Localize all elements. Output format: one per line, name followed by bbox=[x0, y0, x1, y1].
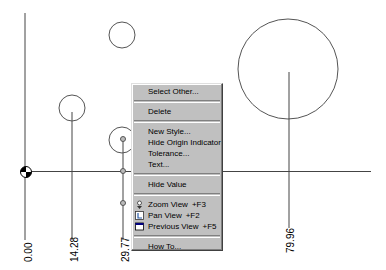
zoom-icon bbox=[135, 200, 144, 209]
circle-feature[interactable] bbox=[109, 22, 135, 48]
shortcut-label: +F5 bbox=[203, 222, 217, 231]
menu-separator bbox=[134, 100, 220, 103]
menu-item-previous-view[interactable]: Previous View+F5 bbox=[132, 221, 222, 232]
menu-item-select-other[interactable]: Select Other... bbox=[132, 86, 222, 97]
shortcut-label: +F3 bbox=[192, 200, 206, 209]
dimension-label[interactable]: 79.96 bbox=[285, 228, 296, 253]
menu-item-label: Tolerance... bbox=[148, 149, 189, 158]
dimension-label[interactable]: 14.28 bbox=[69, 237, 80, 262]
menu-item-label: Zoom View bbox=[148, 200, 188, 209]
dimension-label[interactable]: 0.00 bbox=[23, 243, 34, 262]
menu-item-pan-view[interactable]: Pan View+F2 bbox=[132, 210, 222, 221]
menu-item-tolerance[interactable]: Tolerance... bbox=[132, 148, 222, 159]
menu-item-label: Pan View bbox=[148, 211, 182, 220]
menu-item-label: New Style... bbox=[148, 127, 191, 136]
menu-item-how-to[interactable]: How To... bbox=[132, 241, 222, 252]
dimension-label[interactable]: 29.77 bbox=[120, 237, 131, 262]
menu-item-label: Hide Origin Indicator bbox=[148, 138, 221, 147]
menu-item-hide-value[interactable]: Hide Value bbox=[132, 179, 222, 190]
grip-point[interactable] bbox=[121, 137, 126, 142]
menu-item-label: Delete bbox=[148, 107, 171, 116]
origin-indicator-icon bbox=[21, 167, 32, 178]
large-circle-feature[interactable] bbox=[238, 19, 338, 119]
menu-item-label: Hide Value bbox=[148, 180, 187, 189]
previous-view-icon bbox=[135, 222, 144, 231]
menu-item-new-style[interactable]: New Style... bbox=[132, 126, 222, 137]
menu-item-label: Text... bbox=[148, 160, 169, 169]
menu-separator bbox=[134, 120, 220, 123]
menu-item-label: Select Other... bbox=[148, 87, 199, 96]
menu-separator bbox=[134, 173, 220, 176]
grip-point[interactable] bbox=[121, 169, 126, 174]
shortcut-label: +F2 bbox=[186, 211, 200, 220]
pan-icon bbox=[135, 211, 144, 220]
menu-item-label: How To... bbox=[148, 242, 181, 251]
menu-item-zoom-view[interactable]: Zoom View+F3 bbox=[132, 199, 222, 210]
menu-separator bbox=[134, 235, 220, 238]
menu-separator bbox=[134, 193, 220, 196]
grip-point[interactable] bbox=[121, 201, 126, 206]
menu-item-text[interactable]: Text... bbox=[132, 159, 222, 170]
context-menu: Select Other... Delete New Style... Hide… bbox=[131, 83, 223, 251]
menu-item-label: Previous View bbox=[148, 222, 199, 231]
menu-item-hide-origin-indicator[interactable]: Hide Origin Indicator bbox=[132, 137, 222, 148]
menu-item-delete[interactable]: Delete bbox=[132, 106, 222, 117]
